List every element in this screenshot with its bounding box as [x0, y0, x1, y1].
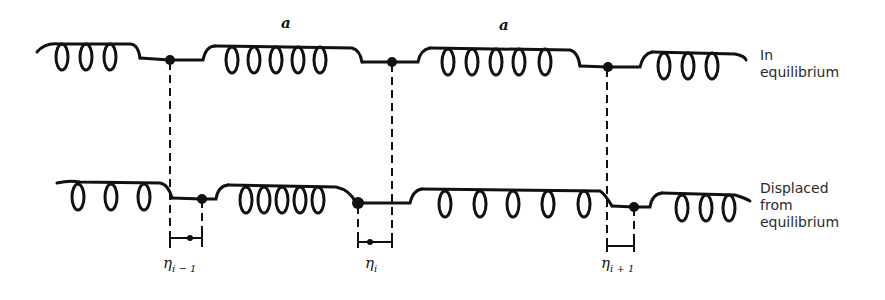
spring-3 [652, 52, 746, 79]
displaced-row [57, 181, 750, 221]
reference-dashed-lines [170, 62, 634, 250]
label-line: equilibrium [760, 64, 839, 81]
displaced-spring-0 [57, 181, 172, 210]
displacement-marker-i-plus-1 [607, 240, 634, 252]
displaced-spring-1 [228, 185, 356, 213]
displaced-row-label: Displaced from equilibrium [760, 180, 839, 231]
displacement-marker-i [358, 236, 392, 248]
equilibrium-nodes [165, 55, 613, 72]
spacing-label-a-left: a [281, 14, 291, 32]
equilibrium-row-label: In equilibrium [760, 47, 839, 81]
label-line: Displaced [760, 180, 839, 197]
spring-chain-diagram [0, 0, 885, 300]
displacement-marker-i-minus-1 [170, 232, 202, 244]
spring-0 [37, 44, 140, 70]
spacing-label-a-right: a [499, 16, 509, 34]
displaced-node-i-minus-1 [197, 194, 207, 204]
displaced-node-i-plus-1 [629, 202, 639, 212]
label-line: equilibrium [760, 214, 839, 231]
eta-symbol: η [601, 254, 610, 272]
displaced-spring-3 [662, 193, 750, 221]
displaced-spring-2 [422, 189, 612, 217]
eta-subscript: i [374, 263, 377, 274]
label-line: In [760, 47, 839, 64]
eta-subscript: i + 1 [610, 263, 634, 274]
spring-1 [215, 46, 362, 73]
displacement-markers [170, 232, 634, 252]
displaced-node-i [352, 197, 364, 209]
label-line: from [760, 197, 839, 214]
spring-2 [430, 48, 580, 75]
eta-symbol: η [365, 254, 374, 272]
eta-symbol: η [163, 254, 172, 272]
displacement-label-i-plus-1: ηi + 1 [601, 254, 634, 274]
eta-subscript: i − 1 [172, 263, 196, 274]
displacement-label-i: ηi [365, 254, 377, 274]
displaced-nodes [197, 194, 639, 212]
displacement-label-i-minus-1: ηi − 1 [163, 254, 196, 274]
